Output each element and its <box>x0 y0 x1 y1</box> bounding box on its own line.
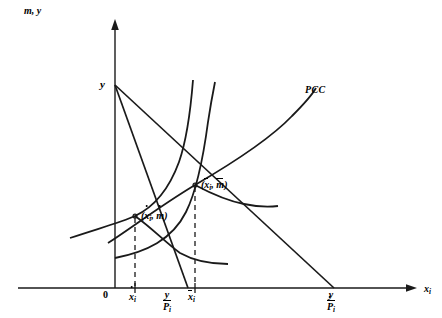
pcc-label: PCC <box>305 85 325 95</box>
axis-label-horizontal: xi <box>424 284 431 297</box>
point-label-first: (xi, m) <box>141 211 167 224</box>
xtick-y-over-p-bar: y Pi <box>163 290 171 315</box>
point-label-second: (xi, m) <box>201 180 227 193</box>
xtick-x-bar: xi <box>188 292 195 305</box>
horizontal-axis <box>18 284 417 292</box>
pcc-diagram: m, y xi 0 y PCC (xi, m) (xi, m) xi y Pi … <box>0 0 442 318</box>
axis-label-vertical: m, y <box>24 6 41 16</box>
y-intercept-label: y <box>100 79 105 90</box>
diagram-canvas <box>0 0 442 318</box>
indifference-curve-1 <box>70 80 193 238</box>
xtick-y-over-p-dot: y Pi <box>327 290 335 315</box>
origin-label: 0 <box>103 290 108 300</box>
xtick-x-dot: xi <box>129 292 136 305</box>
indifference-curve-2 <box>115 82 215 258</box>
budget-line-steep <box>115 85 188 288</box>
vertical-axis <box>111 19 119 288</box>
